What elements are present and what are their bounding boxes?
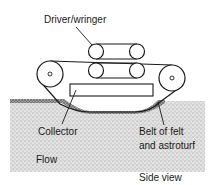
caption-side-view: Side view (139, 172, 182, 184)
left-pulley (37, 61, 63, 87)
belt-label-line1: Belt of felt (139, 126, 183, 138)
belt-skimmer-diagram: Driver/wringer Collector Belt of felt an… (0, 0, 213, 185)
belt-label-line2: and astroturf (139, 140, 195, 152)
driver-wringer-label: Driver/wringer (44, 14, 106, 26)
diagram-drawing (0, 0, 213, 185)
right-pulley (159, 65, 185, 91)
flow-label: Flow (36, 154, 57, 166)
collector-tray (70, 84, 153, 96)
collector-label: Collector (38, 126, 77, 138)
driver-wringer-rollers (89, 44, 145, 78)
